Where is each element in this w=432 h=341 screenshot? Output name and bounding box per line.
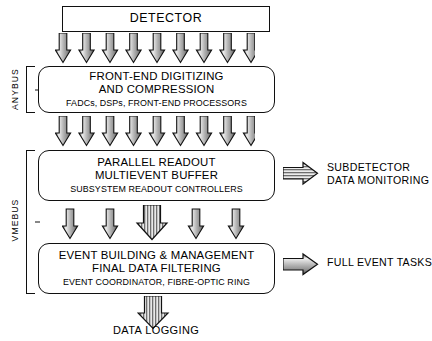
box-eventbuilding-line1: EVENT BUILDING & MANAGEMENT [59, 249, 255, 262]
arrow-group-detector-to-frontend [55, 33, 255, 65]
caption-subdetector-line1: SUBDETECTOR [327, 161, 429, 174]
box-readout-line1: PARALLEL READOUT [97, 156, 215, 169]
caption-subdetector-data-monitoring: SUBDETECTOR DATA MONITORING [327, 161, 429, 187]
box-detector: DETECTOR [62, 6, 270, 32]
arrow-readout-to-subdetector [283, 160, 319, 187]
box-frontend-line2: AND COMPRESSION [99, 83, 215, 96]
box-eventbuilding-subtitle: EVENT COORDINATOR, FIBRE-OPTIC RING [63, 276, 250, 288]
bus-label-vmebus: VMEBUS [10, 195, 20, 245]
box-frontend-digitizing: FRONT-END DIGITIZING AND COMPRESSION FAD… [38, 66, 275, 113]
arrow-group-readout-to-eventbuilding [62, 205, 252, 243]
caption-data-logging-line1: DATA LOGGING [113, 324, 199, 337]
bracket-nub [35, 222, 40, 223]
caption-full-event-tasks: FULL EVENT TASKS [327, 256, 432, 269]
box-frontend-line1: FRONT-END DIGITIZING [89, 70, 223, 83]
box-event-building: EVENT BUILDING & MANAGEMENT FINAL DATA F… [38, 243, 275, 294]
box-readout-subtitle: SUBSYSTEM READOUT CONTROLLERS [70, 183, 242, 195]
bus-bracket-vmebus [26, 150, 35, 294]
box-detector-title: DETECTOR [130, 12, 203, 25]
caption-data-logging: DATA LOGGING [113, 324, 199, 337]
box-frontend-subtitle: FADCs, DSPs, FRONT-END PROCESSORS [66, 97, 247, 109]
bus-label-anybus: ANYBUS [10, 64, 20, 114]
arrow-eventbuilding-to-full-event-tasks [283, 252, 319, 277]
caption-subdetector-line2: DATA MONITORING [327, 174, 429, 187]
box-readout-line2: MULTIEVENT BUFFER [95, 169, 218, 182]
caption-full-event-tasks-line1: FULL EVENT TASKS [327, 256, 432, 269]
arrow-group-frontend-to-readout [55, 116, 255, 148]
box-eventbuilding-line2: FINAL DATA FILTERING [92, 262, 221, 275]
bus-bracket-anybus [26, 66, 35, 113]
box-parallel-readout: PARALLEL READOUT MULTIEVENT BUFFER SUBSY… [38, 150, 275, 201]
